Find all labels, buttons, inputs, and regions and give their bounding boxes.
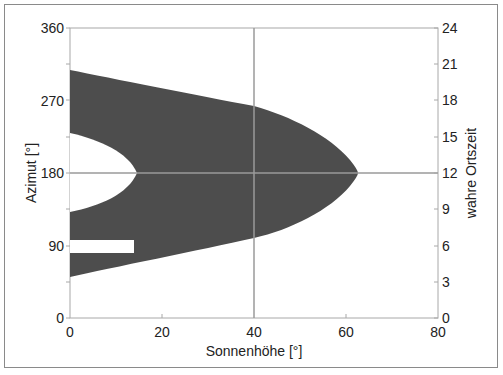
y-tick-label: 180 [41,165,65,181]
chart: 360 270 180 90 0 24 21 18 15 12 9 6 3 0 … [0,0,503,375]
x-axis-title: Sonnenhöhe [°] [206,343,303,359]
y-right-tick-label: 15 [442,129,458,145]
y-right-tick-label: 18 [442,92,458,108]
y-tick-label: 0 [56,310,64,326]
excluded-rectangle [70,240,134,253]
y-right-tick-label: 21 [442,56,458,72]
y-tick-label: 270 [41,93,65,109]
y-axis-title: Azimut [°] [23,143,39,203]
x-tick-label: 20 [154,324,170,340]
y-tick-label: 90 [48,238,64,254]
x-axis-labels: 0 20 40 60 80 [66,324,446,340]
x-tick-label: 40 [246,324,262,340]
x-tick-label: 0 [66,324,74,340]
y-right-axis-title: wahre Ortszeit [463,128,479,219]
left-axis-ticks [66,28,70,318]
y-right-tick-label: 3 [442,274,450,290]
x-tick-label: 80 [430,324,446,340]
y-right-tick-label: 24 [442,20,458,36]
x-tick-label: 60 [338,324,354,340]
right-axis-labels: 24 21 18 15 12 9 6 3 0 [442,20,458,326]
y-right-tick-label: 9 [442,201,450,217]
left-axis-labels: 360 270 180 90 0 [41,20,65,326]
y-tick-label: 360 [41,20,65,36]
y-right-tick-label: 6 [442,238,450,254]
y-right-tick-label: 12 [442,165,458,181]
